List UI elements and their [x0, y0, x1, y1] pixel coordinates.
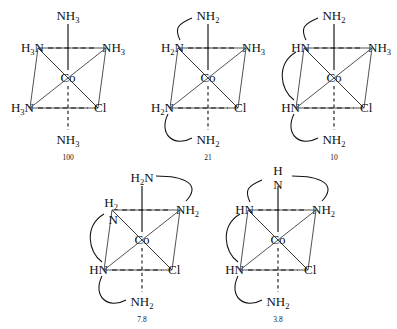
- cage-edge: [308, 210, 316, 270]
- chelate-arc-top-to-upperleft: [303, 18, 318, 40]
- ligand-lower-right: Cl: [168, 262, 181, 277]
- ligand-lower-left: H2N: [151, 100, 175, 117]
- cage-edge: [364, 48, 372, 108]
- ligand-lower-left: HN: [89, 262, 108, 277]
- structure-10: NH2HNNH3HNClNH2Co10: [272, 2, 396, 164]
- structure-caption: 100: [62, 153, 74, 162]
- structure-3-8: HNHNNH2HNClNH2Co3.8: [216, 164, 340, 326]
- metal-center-co: Co: [326, 70, 341, 85]
- cage-edge: [172, 210, 180, 270]
- chelate-arc-top-to-upperleft: [177, 18, 192, 40]
- ligand-bottom: NH2: [130, 294, 153, 311]
- chelate-arc-upperleft-to-lowerleft: [90, 214, 104, 262]
- ligand-lower-left: H3N: [11, 100, 35, 117]
- ligand-top: HN: [273, 163, 283, 192]
- metal-center-co: Co: [134, 232, 149, 247]
- cage-edge: [238, 48, 246, 108]
- structure-caption: 3.8: [273, 315, 283, 324]
- cage-edge: [170, 48, 178, 108]
- ligand-lower-right: Cl: [234, 100, 247, 115]
- chelate-arc-lowerleft-to-bottom: [99, 276, 126, 303]
- structure-21: NH2H2NNH3H2NClNH2Co21: [146, 2, 270, 164]
- ligand-lower-right: Cl: [94, 100, 107, 115]
- ligand-top: NH3: [56, 8, 79, 25]
- structure-caption: 10: [330, 153, 338, 162]
- chelate-arc-upperleft-to-lowerleft: [226, 214, 240, 262]
- ligand-lower-right: Cl: [304, 262, 317, 277]
- metal-center-co: Co: [200, 70, 215, 85]
- ligand-lower-left: HN: [281, 100, 300, 115]
- structure-caption: 21: [204, 153, 212, 162]
- ligand-lower-right: Cl: [360, 100, 373, 115]
- structure-caption: 7.8: [137, 315, 147, 324]
- ligand-upper-right: NH3: [102, 40, 125, 57]
- structure-7-8: H2NH2NNH2HNClNH2Co7.8: [80, 164, 204, 326]
- ligand-upper-left: HN: [291, 40, 310, 55]
- cage-edge: [98, 48, 106, 108]
- metal-center-co: Co: [270, 232, 285, 247]
- metal-center-co: Co: [60, 70, 75, 85]
- ligand-upper-right: NH2: [176, 202, 199, 219]
- ligand-bottom: NH2: [322, 132, 345, 149]
- ligand-bottom: NH3: [56, 132, 79, 149]
- cage-edge: [30, 48, 38, 108]
- chelate-arc-lowerleft-to-bottom: [291, 114, 318, 141]
- chelate-arc-lowerleft-to-bottom: [165, 114, 192, 141]
- structure-100: NH3H3NNH3H3NClNH3Co100: [6, 2, 130, 164]
- chelate-arc-top-to-upperleft: [247, 180, 262, 202]
- figure-canvas: NH3H3NNH3H3NClNH3Co100NH2H2NNH3H2NClNH2C…: [0, 0, 397, 329]
- ligand-upper-left: H2N: [161, 40, 185, 57]
- chelate-arc-top-to-upperright: [156, 176, 192, 201]
- ligand-bottom: NH2: [266, 294, 289, 311]
- ligand-top: NH2: [322, 8, 345, 25]
- ligand-top: NH2: [196, 8, 219, 25]
- chelate-arc-lowerleft-to-bottom: [235, 276, 262, 303]
- chelate-arc-top-to-upperright: [292, 176, 328, 201]
- ligand-top: H2N: [130, 170, 154, 187]
- cage-edge: [296, 48, 304, 108]
- ligand-bottom: NH2: [196, 132, 219, 149]
- ligand-upper-right: NH3: [368, 40, 391, 57]
- ligand-upper-right: NH3: [242, 40, 265, 57]
- cage-edge: [240, 210, 248, 270]
- ligand-upper-left: HN: [235, 202, 254, 217]
- ligand-lower-left: HN: [225, 262, 244, 277]
- ligand-upper-right: NH2: [312, 202, 335, 219]
- chelate-arc-upperleft-to-lowerleft: [282, 52, 296, 100]
- ligand-upper-left: H3N: [21, 40, 45, 57]
